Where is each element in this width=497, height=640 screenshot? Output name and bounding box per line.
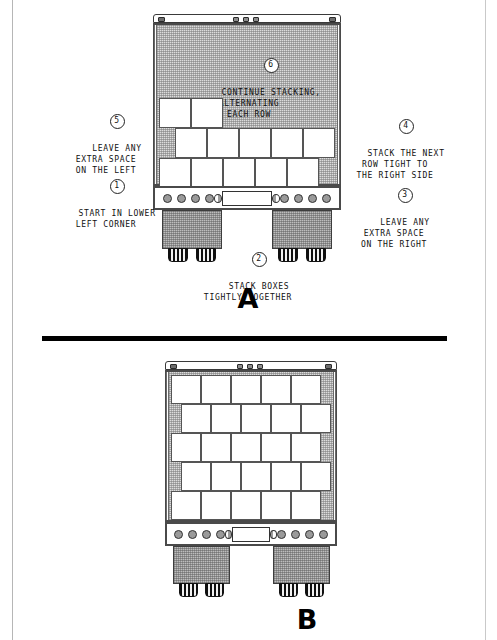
clearance-light-icon — [253, 17, 259, 22]
cargo-area-a: 6 CONTINUE STACKING, ALTERNATING EACH RO… — [153, 23, 341, 186]
clearance-light-icon — [257, 364, 263, 369]
clearance-light-icon — [243, 17, 249, 22]
trailer-post-left — [154, 25, 157, 184]
tail-lamp-icon — [308, 194, 317, 203]
box — [271, 128, 303, 158]
reflector-right-icon — [272, 194, 280, 203]
axle-assembly-left — [173, 546, 230, 584]
tail-lamp-icon — [174, 530, 183, 539]
tail-lamp-icon — [291, 530, 300, 539]
box — [261, 375, 291, 404]
box — [211, 462, 241, 491]
box — [159, 98, 191, 128]
box — [291, 433, 321, 462]
tail-lamp-icon — [322, 194, 331, 203]
axle-assembly-right — [273, 546, 330, 584]
box — [223, 158, 255, 188]
box — [241, 404, 271, 433]
box-row — [171, 404, 331, 433]
box — [207, 128, 239, 158]
tail-lamp-icon — [319, 530, 328, 539]
tire-icon — [306, 248, 326, 262]
box — [241, 462, 271, 491]
box-row — [159, 98, 335, 128]
callout-badge-5: 5 — [110, 114, 125, 129]
tail-lamp-icon — [277, 530, 286, 539]
reflector-left-icon — [214, 194, 222, 203]
box — [291, 375, 321, 404]
box — [231, 375, 261, 404]
box-row — [171, 491, 331, 520]
marker-light-icon — [325, 364, 332, 369]
callout-1: 1 START IN LOWER LEFT CORNER — [56, 168, 156, 241]
callout-badge-1: 1 — [110, 179, 125, 194]
tire-icon — [205, 583, 224, 597]
box — [191, 158, 223, 188]
box-row — [171, 462, 331, 491]
tire-icon — [168, 248, 188, 262]
box — [211, 404, 241, 433]
trailer-roof-a — [153, 14, 341, 23]
box — [261, 433, 291, 462]
clearance-light-icon — [247, 364, 253, 369]
tail-lamp-icon — [205, 194, 214, 203]
tail-lamp-icon — [280, 194, 289, 203]
callout-text-1: START IN LOWER LEFT CORNER — [76, 209, 156, 229]
box-row — [159, 128, 335, 158]
tail-lamp-icon — [177, 194, 186, 203]
box — [301, 404, 331, 433]
box-row — [171, 375, 331, 404]
reflector-left-icon — [225, 530, 232, 539]
box — [261, 491, 291, 520]
lamp-group-left — [174, 530, 225, 539]
box — [291, 491, 321, 520]
panel-divider — [42, 336, 447, 341]
lamp-group-right — [280, 194, 331, 203]
panel-letter-b: B — [277, 604, 337, 635]
tire-icon — [279, 583, 298, 597]
box — [201, 433, 231, 462]
page-border-right — [485, 0, 486, 640]
license-plate — [232, 527, 269, 542]
trailer-post-right — [337, 25, 340, 184]
tire-icon — [305, 583, 324, 597]
box — [171, 375, 201, 404]
callout-badge-2: 2 — [252, 252, 267, 267]
lamp-group-left — [163, 194, 214, 203]
tail-lamp-icon — [188, 530, 197, 539]
clearance-light-icon — [237, 364, 243, 369]
box — [181, 404, 211, 433]
tail-lamp-icon — [305, 530, 314, 539]
callout-3: 3 LEAVE ANY EXTRA SPACE ON THE RIGHT — [344, 177, 444, 261]
page-border-left — [12, 0, 13, 640]
box — [181, 462, 211, 491]
callout-badge-4: 4 — [399, 119, 414, 134]
box-row — [171, 433, 331, 462]
box — [287, 158, 319, 188]
rear-bumper-b — [165, 522, 337, 546]
trailer-post-left — [166, 372, 169, 520]
box — [231, 433, 261, 462]
callout-badge-6: 6 — [264, 58, 279, 73]
callout-text-4: STACK THE NEXT ROW TIGHT TO THE RIGHT SI… — [356, 149, 444, 180]
box — [171, 433, 201, 462]
callout-badge-3: 3 — [398, 188, 413, 203]
callout-text-3: LEAVE ANY EXTRA SPACE ON THE RIGHT — [361, 218, 430, 249]
clearance-light-icon — [233, 17, 239, 22]
box — [301, 462, 331, 491]
cargo-area-b — [165, 370, 337, 522]
page-canvas: 6 CONTINUE STACKING, ALTERNATING EACH RO… — [0, 0, 497, 640]
marker-light-icon — [170, 364, 177, 369]
tail-lamp-icon — [216, 530, 225, 539]
tail-lamp-icon — [163, 194, 172, 203]
panel-letter-a: A — [218, 283, 278, 314]
tire-icon — [179, 583, 198, 597]
box — [159, 158, 191, 188]
box — [255, 158, 287, 188]
box — [231, 491, 261, 520]
box — [201, 491, 231, 520]
box — [303, 128, 335, 158]
trailer-post-right — [333, 372, 336, 520]
marker-light-icon — [329, 17, 336, 22]
box — [271, 462, 301, 491]
